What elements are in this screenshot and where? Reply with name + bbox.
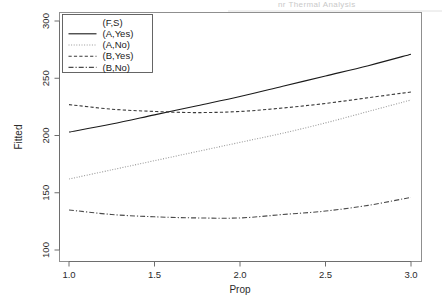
chart-canvas: nr Thermal Analysis 100150200250300 1.01… bbox=[0, 0, 442, 302]
x-axis-title: Prop bbox=[229, 284, 251, 295]
y-axis-tick-label: 200 bbox=[40, 128, 51, 144]
y-axis-tick-label: 250 bbox=[40, 70, 51, 86]
fitted-vs-prop-chart: nr Thermal Analysis 100150200250300 1.01… bbox=[0, 0, 442, 302]
x-axis-tick-label: 1.5 bbox=[148, 269, 161, 280]
x-axis-tick-label: 2.5 bbox=[319, 269, 332, 280]
y-axis-tick-label: 150 bbox=[40, 185, 51, 201]
legend-title: (F,S) bbox=[103, 17, 123, 28]
y-axis-tick-label: 100 bbox=[40, 242, 51, 258]
legend-label-byes: (B,Yes) bbox=[103, 50, 134, 61]
y-axis-title: Fitted bbox=[13, 124, 24, 149]
legend-label-ayes: (A,Yes) bbox=[103, 28, 134, 39]
legend-label-ano: (A,No) bbox=[103, 39, 130, 50]
x-axis-tick-label: 2.0 bbox=[233, 269, 246, 280]
page-header-ghost-text: nr Thermal Analysis bbox=[278, 0, 356, 9]
chart-legend[interactable]: (F,S)(A,Yes)(A,No)(B,Yes)(B,No) bbox=[63, 15, 153, 73]
y-axis-tick-label: 300 bbox=[40, 13, 51, 29]
legend-label-bno: (B,No) bbox=[103, 62, 130, 73]
x-axis-tick-label: 1.0 bbox=[62, 269, 75, 280]
x-axis-tick-label: 3.0 bbox=[404, 269, 417, 280]
